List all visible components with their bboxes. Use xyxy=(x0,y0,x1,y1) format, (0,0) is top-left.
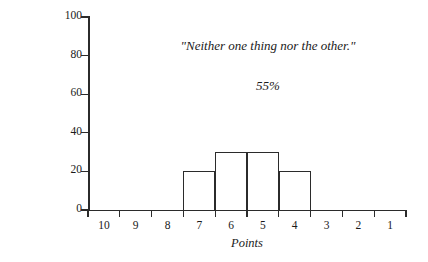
x-axis-tick-label: 10 xyxy=(89,219,119,231)
x-axis-tick-label: 7 xyxy=(184,219,214,231)
x-axis-tick-label: 1 xyxy=(375,219,405,231)
x-axis-tick-label: 3 xyxy=(312,219,342,231)
x-axis-tick xyxy=(119,210,120,217)
y-axis-tick-label: 60 xyxy=(48,86,82,98)
x-axis-title: Points xyxy=(88,236,406,251)
bar xyxy=(247,152,279,210)
x-axis-tick xyxy=(310,210,311,217)
y-axis-tick xyxy=(81,171,89,172)
y-axis-tick-label: 20 xyxy=(48,163,82,175)
x-axis-tick-label: 4 xyxy=(280,219,310,231)
y-axis-tick xyxy=(81,55,89,56)
y-axis-tick-labels: 020406080100 xyxy=(48,0,82,262)
chart-figure: No of Voters 020406080100 10987654321 Po… xyxy=(0,0,428,262)
y-axis-tick xyxy=(81,16,89,17)
x-axis-tick xyxy=(183,210,184,217)
bar xyxy=(279,171,311,210)
x-axis-tick xyxy=(87,210,88,217)
x-axis-tick xyxy=(278,210,279,217)
y-axis-tick xyxy=(81,94,89,95)
y-axis-tick xyxy=(81,132,89,133)
y-axis-tick-label: 80 xyxy=(48,48,82,60)
y-axis-line xyxy=(88,16,90,211)
x-axis-tick xyxy=(405,210,406,217)
bar xyxy=(183,171,215,210)
x-axis-tick xyxy=(342,210,343,217)
y-axis-tick-label: 40 xyxy=(48,125,82,137)
x-axis-tick xyxy=(215,210,216,217)
y-axis-tick-label: 100 xyxy=(48,9,82,21)
x-axis-tick-label: 5 xyxy=(248,219,278,231)
x-axis-tick-label: 2 xyxy=(343,219,373,231)
x-axis-tick xyxy=(246,210,247,217)
x-axis-tick-label: 9 xyxy=(121,219,151,231)
bar xyxy=(215,152,247,210)
x-axis-tick-label: 6 xyxy=(216,219,246,231)
annotation-quote: "Neither one thing nor the other." xyxy=(118,38,418,54)
x-axis-tick-label: 8 xyxy=(153,219,183,231)
x-axis-tick xyxy=(151,210,152,217)
x-axis-tick xyxy=(374,210,375,217)
annotation-percent: 55% xyxy=(118,78,418,94)
y-axis-tick-label: 0 xyxy=(48,202,82,214)
